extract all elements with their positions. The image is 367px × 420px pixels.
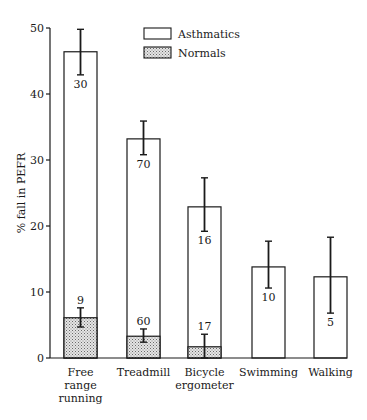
category-label: running bbox=[58, 392, 102, 405]
bar-group: 5 bbox=[314, 237, 347, 358]
legend-label-asthmatics: Asthmatics bbox=[177, 28, 240, 41]
asthmatics-n-label: 5 bbox=[327, 316, 334, 329]
y-tick-label: 20 bbox=[30, 220, 44, 233]
legend: AsthmaticsNormals bbox=[144, 28, 240, 60]
legend-swatch-normals bbox=[144, 47, 171, 58]
category-label: Treadmill bbox=[117, 366, 171, 379]
normals-n-label: 17 bbox=[198, 320, 212, 333]
normals-n-label: 60 bbox=[137, 315, 151, 328]
normals-n-label: 9 bbox=[77, 294, 84, 307]
bar-group: 7060 bbox=[127, 121, 160, 358]
category-label: Bicycle bbox=[184, 366, 224, 379]
y-tick-label: 10 bbox=[30, 286, 44, 299]
bar-group: 309 bbox=[64, 29, 97, 358]
legend-label-normals: Normals bbox=[178, 47, 226, 60]
legend-swatch-asthmatics bbox=[144, 28, 171, 39]
bar-chart: 01020304050 30970601617105 Freerangerunn… bbox=[0, 0, 367, 420]
bar-group: 10 bbox=[252, 241, 285, 358]
category-label: Swimming bbox=[239, 366, 298, 379]
asthmatics-n-label: 30 bbox=[74, 78, 88, 91]
category-label: ergometer bbox=[175, 379, 234, 392]
y-axis-title: % fall in PEFR bbox=[15, 152, 28, 233]
asthmatics-n-label: 16 bbox=[198, 234, 212, 247]
x-axis: FreerangerunningTreadmillBicycleergomete… bbox=[50, 358, 353, 405]
category-label: Walking bbox=[308, 366, 353, 379]
asthmatics-n-label: 10 bbox=[262, 291, 276, 304]
y-tick-label: 40 bbox=[30, 88, 44, 101]
category-label: Free bbox=[68, 366, 94, 379]
bar-group: 1617 bbox=[188, 178, 221, 358]
y-tick-label: 0 bbox=[37, 352, 44, 365]
bars: 30970601617105 bbox=[64, 29, 347, 358]
y-tick-label: 30 bbox=[30, 154, 44, 167]
category-label: range bbox=[64, 379, 96, 392]
y-axis: 01020304050 bbox=[30, 22, 50, 365]
y-tick-label: 50 bbox=[30, 22, 44, 35]
asthmatics-n-label: 70 bbox=[137, 158, 151, 171]
